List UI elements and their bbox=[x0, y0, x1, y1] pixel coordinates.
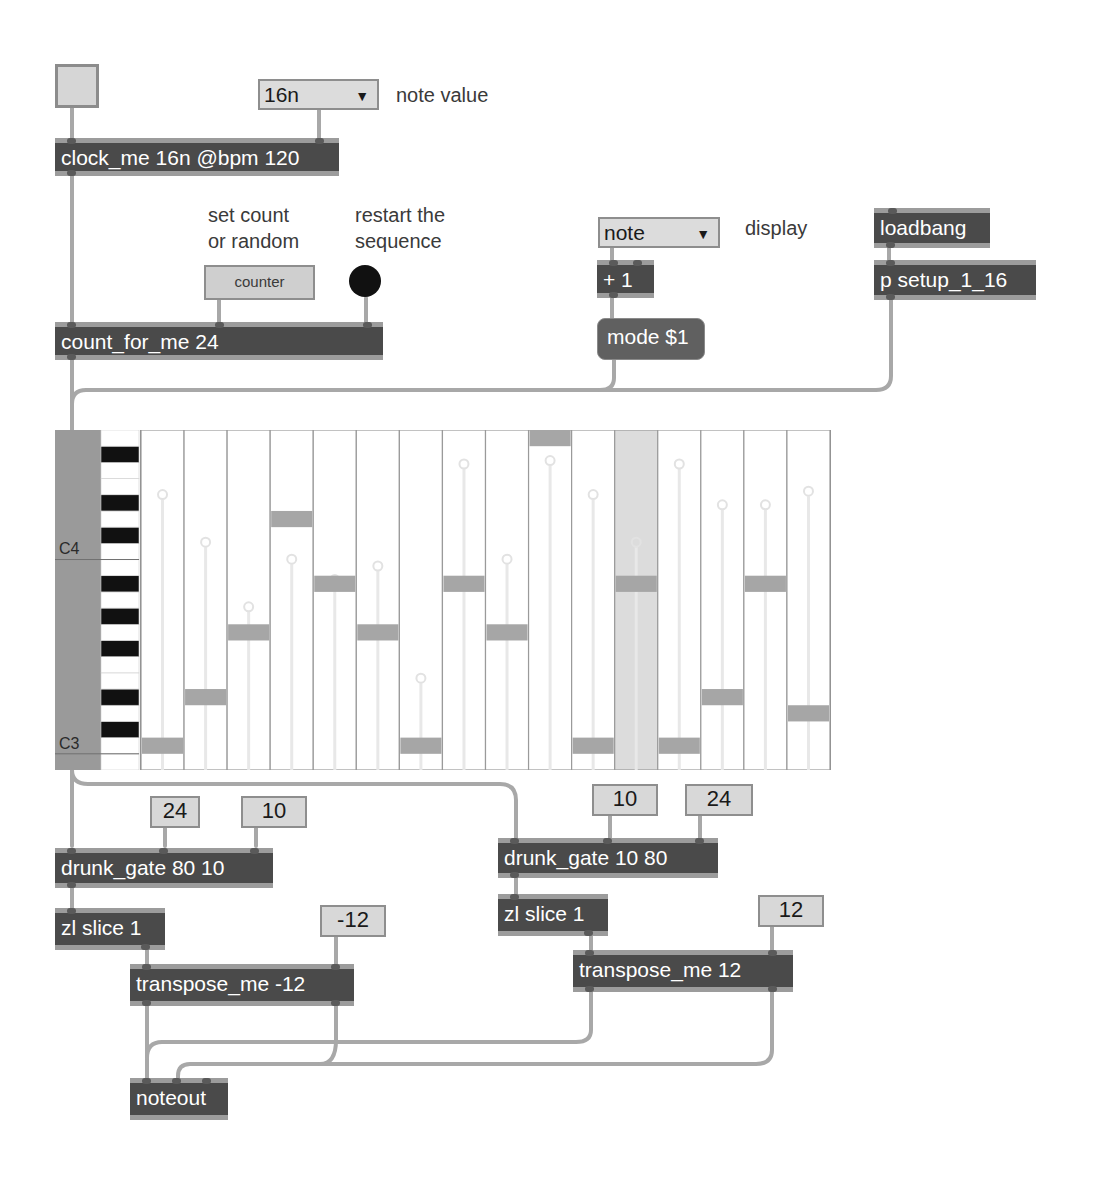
note-bar[interactable] bbox=[314, 576, 355, 592]
setup-subpatch-object[interactable]: p setup_1_16 bbox=[874, 260, 1036, 300]
left-number-a[interactable]: 24 bbox=[150, 796, 200, 828]
cord-tr2-noteout bbox=[320, 988, 772, 1064]
note-bar[interactable] bbox=[271, 511, 312, 527]
left-number-b[interactable]: 10 bbox=[241, 796, 307, 828]
note-bar[interactable] bbox=[142, 738, 183, 754]
counter-button[interactable]: counter bbox=[204, 265, 315, 300]
note-bar[interactable] bbox=[228, 624, 269, 640]
white-key bbox=[101, 592, 139, 608]
left-zl-slice-object[interactable]: zl slice 1 bbox=[55, 908, 165, 950]
right-zl-slice-object[interactable]: zl slice 1 bbox=[498, 894, 608, 936]
dropdown-arrow-icon: ▼ bbox=[355, 84, 369, 108]
black-key bbox=[101, 527, 139, 543]
white-key bbox=[101, 754, 139, 770]
white-key bbox=[101, 511, 139, 527]
clock-object[interactable]: clock_me 16n @bpm 120 bbox=[55, 138, 339, 176]
sequencer-svg[interactable] bbox=[55, 430, 831, 770]
keyboard-sidebar bbox=[55, 430, 101, 770]
step-sequencer[interactable]: C4 C3 bbox=[55, 430, 831, 770]
left-zl-slice-text: zl slice 1 bbox=[61, 916, 142, 939]
note-bar[interactable] bbox=[745, 576, 786, 592]
white-key bbox=[101, 462, 139, 478]
clock-object-text: clock_me 16n @bpm 120 bbox=[61, 146, 299, 169]
note-bar[interactable] bbox=[487, 624, 528, 640]
noteout-text: noteout bbox=[136, 1086, 206, 1109]
restart-bang-button[interactable] bbox=[349, 265, 381, 297]
key-label-c4: C4 bbox=[59, 540, 79, 558]
note-bar[interactable] bbox=[702, 689, 743, 705]
note-bar[interactable] bbox=[659, 738, 700, 754]
note-value-selected: 16n bbox=[264, 83, 299, 106]
setup-subpatch-text: p setup_1_16 bbox=[880, 268, 1007, 291]
left-drunk-gate-object[interactable]: drunk_gate 80 10 bbox=[55, 848, 273, 888]
left-transpose-object[interactable]: transpose_me -12 bbox=[130, 964, 354, 1006]
display-label: display bbox=[745, 215, 807, 241]
note-bar[interactable] bbox=[400, 738, 441, 754]
right-transpose-text: transpose_me 12 bbox=[579, 958, 741, 981]
note-bar[interactable] bbox=[573, 738, 614, 754]
key-label-c3: C3 bbox=[59, 735, 79, 753]
loadbang-text: loadbang bbox=[880, 216, 966, 239]
note-bar[interactable] bbox=[357, 624, 398, 640]
right-number-b[interactable]: 24 bbox=[685, 784, 753, 816]
white-key bbox=[101, 657, 139, 673]
white-key bbox=[101, 543, 139, 559]
noteout-object[interactable]: noteout bbox=[130, 1078, 228, 1120]
note-bar[interactable] bbox=[185, 689, 226, 705]
display-selected: note bbox=[604, 221, 645, 244]
mode-message-text: mode $1 bbox=[607, 325, 689, 348]
right-drunk-gate-text: drunk_gate 10 80 bbox=[504, 846, 667, 869]
black-key bbox=[101, 721, 139, 737]
white-key bbox=[101, 430, 139, 446]
right-number-a[interactable]: 10 bbox=[592, 784, 658, 816]
cord-mode-grid bbox=[72, 360, 614, 430]
display-menu[interactable]: note ▼ bbox=[598, 217, 720, 248]
right-transpose-object[interactable]: transpose_me 12 bbox=[573, 950, 793, 992]
white-key bbox=[101, 479, 139, 495]
right-drunk-gate-object[interactable]: drunk_gate 10 80 bbox=[498, 838, 718, 878]
white-key bbox=[101, 673, 139, 689]
right-transpose-number[interactable]: 12 bbox=[758, 895, 824, 927]
plus-one-object[interactable]: + 1 bbox=[597, 260, 654, 298]
toggle[interactable] bbox=[55, 64, 99, 108]
count-for-me-object[interactable]: count_for_me 24 bbox=[55, 322, 383, 360]
left-drunk-gate-text: drunk_gate 80 10 bbox=[61, 856, 224, 879]
left-transpose-number[interactable]: -12 bbox=[320, 905, 386, 937]
note-bar[interactable] bbox=[443, 576, 484, 592]
note-value-label: note value bbox=[396, 82, 488, 108]
loadbang-object[interactable]: loadbang bbox=[874, 208, 990, 248]
note-value-menu[interactable]: 16n ▼ bbox=[258, 79, 379, 110]
right-zl-slice-text: zl slice 1 bbox=[504, 902, 585, 925]
black-key bbox=[101, 495, 139, 511]
plus-one-text: + 1 bbox=[603, 268, 633, 291]
white-key bbox=[101, 705, 139, 721]
white-key bbox=[101, 738, 139, 754]
black-key bbox=[101, 446, 139, 462]
note-bar[interactable] bbox=[616, 576, 657, 592]
white-key bbox=[101, 560, 139, 576]
count-for-me-text: count_for_me 24 bbox=[61, 330, 219, 353]
black-key bbox=[101, 689, 139, 705]
dropdown-arrow-icon: ▼ bbox=[696, 222, 710, 246]
note-bar[interactable] bbox=[530, 430, 571, 446]
black-key bbox=[101, 576, 139, 592]
black-key bbox=[101, 608, 139, 624]
restart-comment: restart the sequence bbox=[355, 202, 445, 254]
mode-message[interactable]: mode $1 bbox=[597, 318, 705, 360]
black-key bbox=[101, 640, 139, 656]
white-key bbox=[101, 624, 139, 640]
note-bar[interactable] bbox=[788, 705, 829, 721]
counter-comment: set count or random bbox=[208, 202, 299, 254]
left-transpose-text: transpose_me -12 bbox=[136, 972, 305, 995]
